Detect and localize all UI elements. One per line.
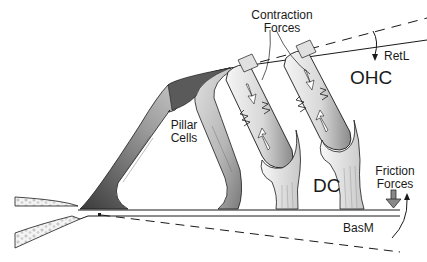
- pillar-label-line1: Pillar: [166, 119, 202, 132]
- ohc-label: OHC: [350, 68, 392, 88]
- limbus-lower: [15, 216, 80, 248]
- retl-arrowhead-icon: [372, 54, 378, 61]
- basm-label: BasM: [343, 222, 374, 235]
- friction-label-line2: Forces: [370, 178, 420, 191]
- dc-label: DC: [313, 176, 340, 196]
- contraction-pointer-1: [262, 30, 270, 80]
- basilar-membrane: [78, 210, 400, 219]
- friction-force-arrow-icon: [386, 190, 401, 208]
- retl-label: RetL: [384, 50, 409, 63]
- basm-arrowhead-icon: [404, 193, 410, 200]
- contraction-label-line1: Contraction: [238, 9, 326, 22]
- pillar-label-line2: Cells: [166, 132, 202, 145]
- retl-rotation-arrow: [373, 31, 377, 55]
- pillar-cells-label: Pillar Cells: [166, 119, 202, 144]
- outer-hair-cell-2: [284, 40, 351, 150]
- friction-forces-label: Friction Forces: [370, 165, 420, 190]
- outer-hair-cell-1: [226, 54, 293, 168]
- contraction-label-line2: Forces: [238, 22, 326, 35]
- contraction-forces-label: Contraction Forces: [238, 9, 326, 34]
- pillar-cells: [80, 68, 242, 209]
- limbus-upper: [15, 197, 78, 206]
- friction-label-line1: Friction: [370, 165, 420, 178]
